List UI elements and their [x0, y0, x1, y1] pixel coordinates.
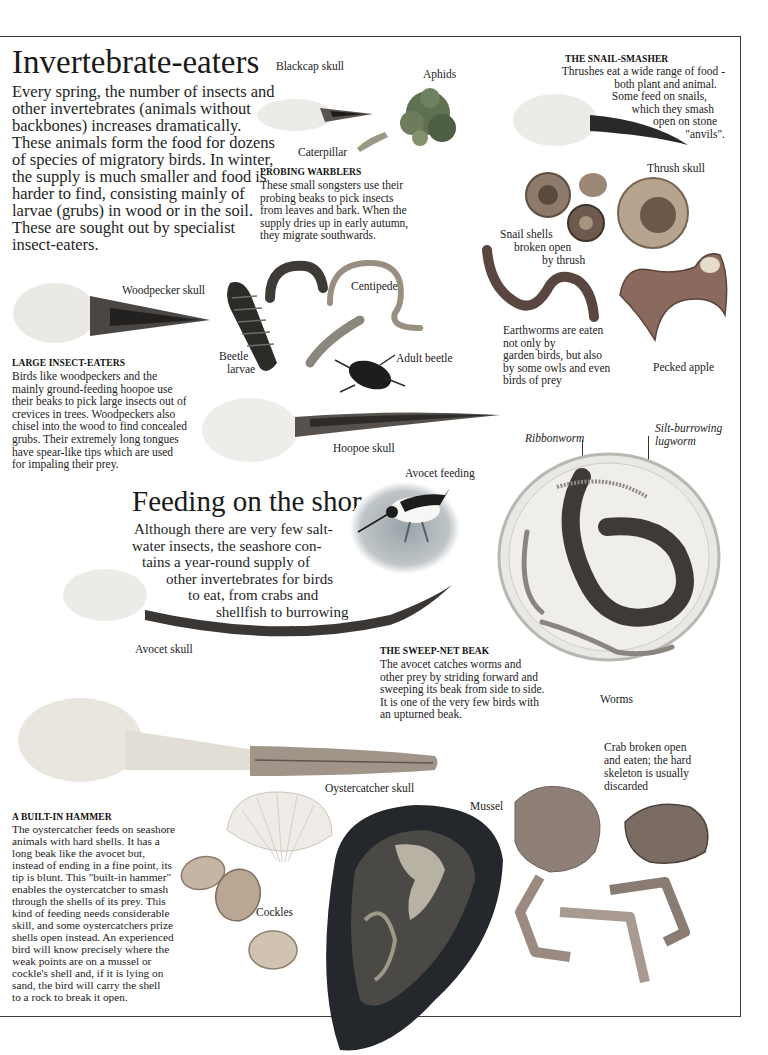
label-avocet-skull: Avocet skull — [135, 643, 193, 656]
top-rule — [0, 36, 741, 37]
label-hoopoe-skull: Hoopoe skull — [333, 442, 395, 455]
heading-large-insect-eaters: LARGE INSECT-EATERS — [12, 358, 187, 368]
right-rule — [740, 36, 741, 1017]
heading-built-in-hammer: A BUILT-IN HAMMER — [12, 812, 175, 822]
earthworm-image — [482, 245, 602, 320]
worms-dish-image — [497, 452, 722, 662]
label-ribbonworm: Ribbonworm — [525, 432, 584, 445]
label-avocet-feeding: Avocet feeding — [405, 467, 475, 480]
large-insect-eaters-block: LARGE INSECT-EATERS Birds like woodpecke… — [12, 358, 187, 471]
label-oystercatcher-skull: Oystercatcher skull — [325, 782, 414, 795]
heading-sweep-net-beak: THE SWEEP-NET BEAK — [380, 646, 544, 656]
label-worms: Worms — [600, 693, 633, 706]
earthworm-caption: Earthworms are eaten not only by garden … — [503, 324, 610, 387]
mussel-image — [315, 800, 510, 1055]
section-title-invertebrate-eaters: Invertebrate-eaters — [12, 46, 259, 79]
heading-snail-smasher: THE SNAIL-SMASHER — [520, 54, 725, 64]
aphids-image — [390, 83, 465, 153]
probing-warblers-block: PROBING WARBLERS These small songsters u… — [260, 167, 408, 242]
insect-larva-image — [265, 258, 330, 313]
label-woodpecker-skull: Woodpecker skull — [122, 284, 205, 297]
avocet-skull-image — [60, 565, 455, 645]
heading-probing-warblers: PROBING WARBLERS — [260, 167, 408, 177]
thrush-skull-image — [510, 85, 690, 155]
label-centipede: Centipede — [351, 280, 398, 293]
crab-image — [500, 782, 735, 987]
label-caterpillar: Caterpillar — [298, 146, 347, 159]
label-aphids: Aphids — [423, 68, 456, 81]
label-adult-beetle: Adult beetle — [396, 352, 453, 365]
label-pecked-apple: Pecked apple — [653, 361, 714, 374]
built-in-hammer-block: A BUILT-IN HAMMER The oystercatcher feed… — [12, 812, 175, 1003]
intro-paragraph: Every spring, the number of insects and … — [12, 83, 275, 253]
pecked-apple-image — [615, 245, 730, 345]
label-lugworm: Silt-burrowing lugworm — [655, 422, 722, 448]
section-title-feeding-on-the-shore: Feeding on the shore — [132, 487, 374, 516]
label-cockles: Cockles — [256, 906, 293, 919]
caterpillar-image — [355, 128, 390, 153]
avocet-feeding-photo — [350, 480, 460, 575]
label-blackcap-skull: Blackcap skull — [276, 60, 344, 73]
hoopoe-skull-image — [200, 395, 505, 470]
label-beetle-larvae: Beetle larvae — [219, 350, 255, 376]
